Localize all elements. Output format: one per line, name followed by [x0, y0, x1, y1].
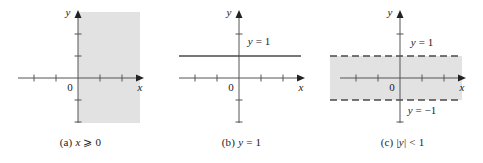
y-axis-arrow-b: [236, 10, 243, 18]
y-axis-label-a: y: [65, 6, 71, 18]
line-label-variable-b: y: [247, 35, 253, 47]
y-axis-label-c: y: [387, 6, 393, 18]
figure-three-panel-inequality-graphs: y x 0 (a) x ⩾ 0: [0, 0, 483, 163]
line-label-rest-c-lower: = −1: [416, 104, 437, 116]
caption-b-variable: y: [238, 136, 243, 148]
caption-a-prefix: (a): [60, 136, 73, 148]
line-label-variable-c-lower: y: [407, 104, 413, 116]
caption-a-variable: x: [75, 136, 80, 148]
caption-b: (b) y = 1: [161, 136, 322, 148]
origin-label-c: 0: [389, 81, 395, 93]
line-label-rest-b: = 1: [256, 35, 270, 47]
caption-a-relation: ⩾ 0: [83, 136, 101, 148]
line-label-rest-c-upper: = 1: [419, 36, 433, 48]
panel-b: y= 1 y x 0 (b) y = 1: [161, 0, 322, 163]
y-axis-arrow-c: [397, 10, 404, 18]
shaded-region-a: [78, 12, 140, 123]
x-axis-label-a: x: [137, 81, 143, 93]
line-label-y-equals-1-c: y= 1: [410, 36, 433, 48]
line-label-variable-c-upper: y: [410, 36, 416, 48]
caption-c-prefix: (c): [381, 136, 394, 148]
panel-c: y= 1 y= −1 y x 0 (c) |y| < 1: [322, 0, 483, 163]
panel-a: y x 0 (a) x ⩾ 0: [0, 0, 161, 163]
panel-a-plot: y x 0: [0, 0, 161, 135]
y-axis-label-b: y: [226, 6, 232, 18]
x-axis-label-c: x: [459, 81, 465, 93]
caption-a: (a) x ⩾ 0: [0, 136, 161, 149]
caption-c-relation: | < 1: [404, 136, 424, 148]
line-label-y-equals-1-b: y= 1: [247, 35, 270, 47]
caption-b-prefix: (b): [222, 136, 235, 148]
panel-c-plot: y= 1 y= −1 y x 0: [322, 0, 483, 135]
line-label-y-equals-neg1-c: y= −1: [407, 104, 437, 116]
x-axis-label-b: x: [298, 81, 304, 93]
panel-b-plot: y= 1 y x 0: [161, 0, 322, 135]
caption-b-relation: = 1: [246, 136, 261, 148]
origin-label-a: 0: [67, 81, 73, 93]
origin-label-b: 0: [228, 81, 234, 93]
caption-c: (c) |y| < 1: [322, 136, 483, 148]
